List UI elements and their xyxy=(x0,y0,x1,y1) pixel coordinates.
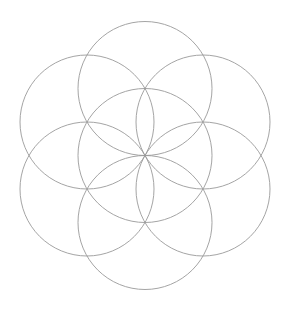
image-canvas xyxy=(0,0,285,311)
seed-of-life-figure xyxy=(0,0,285,311)
